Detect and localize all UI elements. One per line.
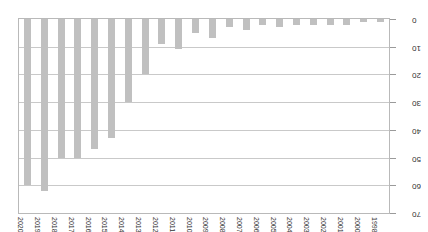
y-tick-label: 30 bbox=[412, 99, 428, 107]
bar bbox=[24, 19, 31, 185]
x-tick-label: 2012 bbox=[152, 217, 159, 232]
y-tick-mark bbox=[390, 213, 396, 214]
x-tick-label: 2020 bbox=[17, 217, 24, 232]
y-tick-label: 40 bbox=[412, 127, 428, 135]
y-tick-label: 0 bbox=[412, 16, 428, 24]
y-tick-mark bbox=[390, 19, 396, 20]
bar bbox=[41, 19, 48, 191]
x-tick-label: 2010 bbox=[186, 217, 193, 232]
bar bbox=[276, 19, 283, 27]
y-tick-mark bbox=[390, 185, 396, 186]
y-tick-label: 20 bbox=[412, 71, 428, 79]
bar bbox=[293, 19, 300, 25]
bar bbox=[360, 19, 367, 22]
x-tick-label: 2007 bbox=[236, 217, 243, 232]
y-tick-mark bbox=[390, 102, 396, 103]
bar bbox=[74, 19, 81, 158]
bar bbox=[58, 19, 65, 158]
bar bbox=[343, 19, 350, 25]
bar bbox=[226, 19, 233, 27]
x-tick-label: 2002 bbox=[320, 217, 327, 232]
x-tick-label: 2008 bbox=[219, 217, 226, 232]
x-tick-label: 2013 bbox=[135, 217, 142, 232]
x-tick-label: 2016 bbox=[85, 217, 92, 232]
x-tick-label: 2019 bbox=[34, 217, 41, 232]
bar bbox=[259, 19, 266, 25]
x-tick-label: 2011 bbox=[169, 217, 176, 232]
x-tick-label: 2018 bbox=[51, 217, 58, 232]
y-tick-mark bbox=[390, 158, 396, 159]
bar bbox=[91, 19, 98, 149]
bar bbox=[125, 19, 132, 102]
bar bbox=[142, 19, 149, 74]
bars-layer bbox=[19, 19, 389, 213]
x-tick-label: 2004 bbox=[287, 217, 294, 232]
x-tick-label: 2000 bbox=[354, 217, 361, 232]
x-tick-label: 2005 bbox=[270, 217, 277, 232]
x-tick-label: 2014 bbox=[118, 217, 125, 232]
bar bbox=[108, 19, 115, 138]
x-axis: 1998200020012002200320042005200620072008… bbox=[19, 214, 389, 232]
x-tick-label: 2003 bbox=[303, 217, 310, 232]
x-tick-label: 2017 bbox=[68, 217, 75, 232]
bar bbox=[377, 19, 384, 22]
bar-chart: 010203040506070 199820002001200220032004… bbox=[0, 0, 428, 232]
y-tick-label: 10 bbox=[412, 44, 428, 52]
y-tick-mark bbox=[390, 47, 396, 48]
y-tick-label: 60 bbox=[412, 182, 428, 190]
bar bbox=[243, 19, 250, 30]
bar bbox=[327, 19, 334, 25]
y-tick-mark bbox=[390, 74, 396, 75]
bar bbox=[192, 19, 199, 33]
y-tick-mark bbox=[390, 130, 396, 131]
y-tick-label: 70 bbox=[412, 210, 428, 218]
x-tick-label: 2001 bbox=[337, 217, 344, 232]
x-tick-label: 1998 bbox=[371, 217, 378, 232]
bar bbox=[175, 19, 182, 49]
bar bbox=[158, 19, 165, 44]
bar bbox=[310, 19, 317, 25]
x-tick-label: 2006 bbox=[253, 217, 260, 232]
y-tick-label: 50 bbox=[412, 155, 428, 163]
x-tick-label: 2009 bbox=[202, 217, 209, 232]
x-tick-label: 2015 bbox=[102, 217, 109, 232]
bar bbox=[209, 19, 216, 38]
